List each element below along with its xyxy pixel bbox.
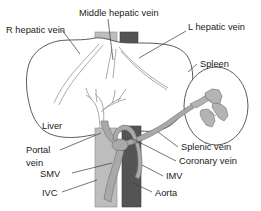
portal-vein-label-line1: Portal <box>26 145 50 155</box>
spleen-label: Spleen <box>200 59 229 69</box>
smv-label: SMV <box>40 169 61 179</box>
leader-imv <box>142 165 163 176</box>
middle-hepatic-vein-label: Middle hepatic vein <box>79 8 159 18</box>
leader-splenic-vein <box>158 132 178 147</box>
leader-ivc <box>62 180 97 192</box>
liver-label: Liver <box>42 121 62 131</box>
r-hepatic-vein-label: R hepatic vein <box>6 25 65 35</box>
ivc-label: IVC <box>42 188 58 198</box>
diagram-canvas: Liver <box>0 0 261 211</box>
l-hepatic-vein-label: L hepatic vein <box>188 22 245 32</box>
portal-confluence <box>112 139 128 151</box>
splenic-vein-label: Splenic vein <box>181 142 231 152</box>
anatomy-diagram: Liver <box>0 0 261 211</box>
aorta-label: Aorta <box>155 188 178 198</box>
coronary-vein-label: Coronary vein <box>179 156 237 166</box>
portal-vein-label-line2: vein <box>26 158 43 168</box>
imv-label: IMV <box>166 171 183 181</box>
